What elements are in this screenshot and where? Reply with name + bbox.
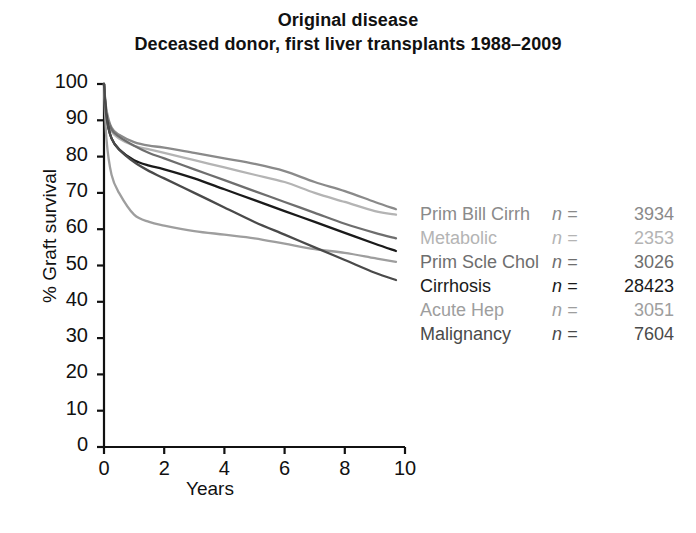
legend-row: Malignancyn =7604 <box>420 324 674 348</box>
legend-n-equals: n = <box>552 300 596 321</box>
legend-row: Acute Hepn =3051 <box>420 300 674 324</box>
y-tick-label: 100 <box>42 70 88 93</box>
series-line-metabolic <box>104 84 396 215</box>
legend-row: Cirrhosisn =28423 <box>420 276 674 300</box>
legend-n-equals: n = <box>552 324 596 345</box>
y-tick-label: 50 <box>42 252 88 275</box>
legend-label: Prim Bill Cirrh <box>420 204 552 225</box>
y-tick-label: 60 <box>42 215 88 238</box>
y-tick-label: 70 <box>42 179 88 202</box>
legend-n-value: 2353 <box>596 228 674 249</box>
legend-label: Metabolic <box>420 228 552 249</box>
y-tick-label: 30 <box>42 324 88 347</box>
legend-n-value: 28423 <box>596 276 674 297</box>
chart-legend: Prim Bill Cirrhn =3934Metabolicn =2353Pr… <box>420 204 674 348</box>
legend-row: Prim Bill Cirrhn =3934 <box>420 204 674 228</box>
chart-page: Original disease Deceased donor, first l… <box>0 0 696 533</box>
legend-row: Prim Scle Choln =3026 <box>420 252 674 276</box>
legend-row: Metabolicn =2353 <box>420 228 674 252</box>
legend-n-value: 3051 <box>596 300 674 321</box>
x-tick-label: 2 <box>144 457 184 480</box>
legend-n-equals: n = <box>552 228 596 249</box>
legend-label: Cirrhosis <box>420 276 552 297</box>
x-tick-label: 8 <box>325 457 365 480</box>
legend-n-equals: n = <box>552 204 596 225</box>
y-tick-label: 20 <box>42 360 88 383</box>
x-tick-label: 10 <box>385 457 425 480</box>
legend-n-value: 3934 <box>596 204 674 225</box>
x-tick-label: 0 <box>84 457 124 480</box>
y-tick-label: 90 <box>42 106 88 129</box>
legend-label: Acute Hep <box>420 300 552 321</box>
x-tick-label: 4 <box>204 457 244 480</box>
y-tick-label: 10 <box>42 397 88 420</box>
legend-n-equals: n = <box>552 252 596 273</box>
legend-n-equals: n = <box>552 276 596 297</box>
y-tick-label: 40 <box>42 288 88 311</box>
legend-label: Prim Scle Chol <box>420 252 552 273</box>
x-tick-label: 6 <box>265 457 305 480</box>
x-axis-title: Years <box>150 478 270 500</box>
y-tick-label: 80 <box>42 143 88 166</box>
y-tick-label: 0 <box>42 433 88 456</box>
series-line-prim-scle-chol <box>104 84 396 238</box>
legend-n-value: 3026 <box>596 252 674 273</box>
series-line-malignancy <box>104 84 396 280</box>
legend-label: Malignancy <box>420 324 552 345</box>
legend-n-value: 7604 <box>596 324 674 345</box>
